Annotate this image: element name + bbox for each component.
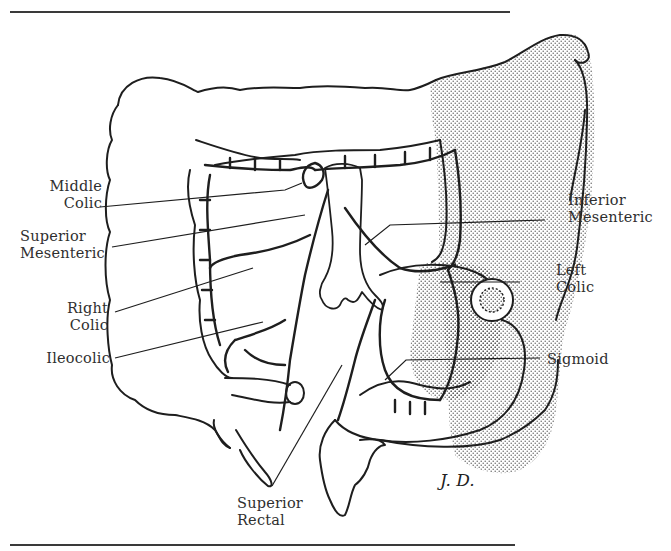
label-right-colic: Right Colic — [40, 300, 108, 334]
descending-colon-stipple — [410, 34, 594, 473]
aorta — [320, 164, 383, 310]
label-text: Rectal — [237, 512, 303, 529]
label-superior-mesenteric: Superior Mesenteric — [20, 228, 105, 262]
label-text: Mesenteric — [20, 245, 105, 262]
label-text: Middle — [40, 178, 102, 195]
label-text: Colic — [40, 195, 102, 212]
label-inferior-mesenteric: Inferior Mesenteric — [568, 192, 653, 226]
label-text: Left — [556, 262, 594, 279]
label-text: Superior — [20, 228, 105, 245]
leader-ileocolic — [115, 322, 263, 358]
label-text: Colic — [40, 317, 108, 334]
bottom-rule — [10, 544, 515, 546]
figure: Middle Colic Superior Mesenteric Right C… — [0, 0, 671, 551]
label-text: Right — [40, 300, 108, 317]
label-text: Ileocolic — [30, 350, 110, 367]
label-text: Inferior — [568, 192, 653, 209]
leader-middle-colic — [100, 183, 302, 207]
label-text: Mesenteric — [568, 209, 653, 226]
label-text: Sigmoid — [547, 351, 609, 368]
label-ileocolic: Ileocolic — [30, 350, 110, 367]
colon-cross-section — [471, 279, 513, 321]
label-text: Superior — [237, 495, 303, 512]
leader-right-colic — [115, 268, 253, 312]
label-sigmoid: Sigmoid — [547, 351, 609, 368]
label-left-colic: Left Colic — [556, 262, 594, 296]
label-text: Colic — [556, 279, 594, 296]
artist-signature: J. D. — [440, 470, 475, 490]
label-middle-colic: Middle Colic — [40, 178, 102, 212]
label-superior-rectal: Superior Rectal — [237, 495, 303, 529]
